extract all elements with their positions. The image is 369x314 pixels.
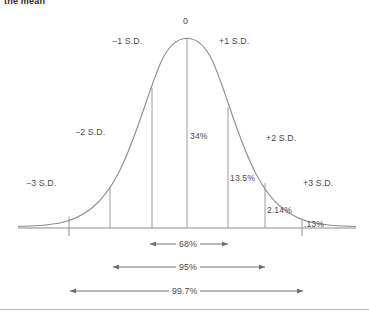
bracket-label-95: 95%: [176, 262, 200, 272]
sd-label-neg1: −1 S.D.: [112, 36, 142, 46]
sd-label-neg3: −3 S.D.: [26, 178, 56, 188]
sd-label-pos3: +3 S.D.: [303, 178, 333, 188]
sd-label-neg2: −2 S.D.: [75, 127, 105, 137]
bracket-label-997: 99.7%: [169, 286, 200, 296]
sd-label-pos1: +1 S.D.: [219, 36, 249, 46]
percent-label-34: 34%: [190, 131, 208, 141]
percent-label-214: 2.14%: [267, 205, 292, 215]
sd-label-pos2: +2 S.D.: [266, 133, 296, 143]
percent-label-135: 13.5%: [230, 173, 255, 183]
percent-label-013: .13%: [304, 219, 324, 229]
normal-distribution-figure: the mean: [0, 0, 369, 314]
bottom-divider: [0, 309, 369, 310]
sd-label-zero: 0: [183, 16, 188, 26]
bracket-label-68: 68%: [176, 239, 200, 249]
